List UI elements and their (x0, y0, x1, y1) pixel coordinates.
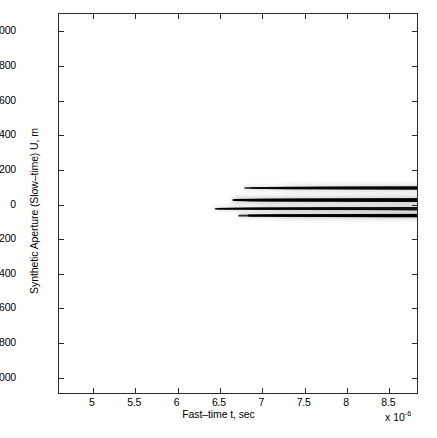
y-tick-mark (59, 378, 64, 379)
y-tick-mark (59, 66, 64, 67)
y-tick-mark (59, 170, 64, 171)
y-tick-mark-right (412, 101, 417, 102)
x-tick-mark-top (262, 14, 263, 19)
y-tick-mark-right (412, 343, 417, 344)
x-tick-mark (135, 388, 136, 393)
y-tick-label: 400 (0, 129, 16, 139)
x-tick-label: 5 (89, 397, 95, 407)
y-tick-mark (59, 239, 64, 240)
y-tick-label: 600 (0, 95, 16, 105)
y-tick-mark-right (412, 308, 417, 309)
y-tick-mark (59, 308, 64, 309)
y-tick-mark-right (412, 31, 417, 32)
figure-caption (0, 430, 437, 438)
y-tick-mark (59, 205, 64, 206)
y-tick-mark-right (412, 170, 417, 171)
x-tick-mark (305, 388, 306, 393)
sar-data-plot (59, 14, 417, 393)
y-axis-title: Synthetic Aperture (Slow–time) U, m (28, 81, 40, 341)
x-tick-mark (347, 388, 348, 393)
y-tick-label: −400 (0, 268, 16, 278)
x-tick-mark-top (389, 14, 390, 19)
y-tick-mark-right (412, 205, 417, 206)
y-tick-mark (59, 101, 64, 102)
y-tick-mark-right (412, 239, 417, 240)
y-tick-label: −800 (0, 337, 16, 347)
y-tick-label: 200 (0, 164, 16, 174)
y-tick-mark-right (412, 135, 417, 136)
y-tick-mark (59, 135, 64, 136)
sar-curve-segment (279, 110, 417, 327)
x-tick-label: 8.5 (381, 397, 395, 407)
x-tick-mark (93, 388, 94, 393)
y-tick-label: 800 (0, 60, 16, 70)
y-tick-label: −1000 (0, 372, 16, 382)
x-tick-label: 7.5 (297, 397, 311, 407)
y-tick-mark (59, 31, 64, 32)
x-tick-mark (389, 388, 390, 393)
x-tick-label: 6 (174, 397, 180, 407)
x-tick-mark-top (347, 14, 348, 19)
sar-figure: Fast–time t, sec x 10-6 Synthetic Apertu… (0, 0, 437, 438)
x-tick-mark-top (135, 14, 136, 19)
x-tick-mark-top (178, 14, 179, 19)
y-tick-mark-right (412, 378, 417, 379)
plot-area (58, 13, 418, 394)
x-tick-mark-top (305, 14, 306, 19)
x-tick-label: 8 (343, 397, 349, 407)
x-tick-mark (178, 388, 179, 393)
y-tick-mark (59, 274, 64, 275)
x-tick-mark (262, 388, 263, 393)
x-axis-exponent: x 10-6 (385, 410, 411, 423)
x-exponent-prefix: x 10 (385, 411, 405, 423)
y-tick-label: 0 (10, 199, 16, 209)
y-tick-mark-right (412, 274, 417, 275)
y-tick-mark (59, 343, 64, 344)
y-tick-label: −600 (0, 302, 16, 312)
y-tick-label: 1000 (0, 25, 16, 35)
y-tick-label: −200 (0, 233, 16, 243)
x-tick-mark (220, 388, 221, 393)
x-tick-mark-top (93, 14, 94, 19)
x-tick-label: 7 (258, 397, 264, 407)
y-tick-mark-right (412, 66, 417, 67)
x-tick-label: 6.5 (212, 397, 226, 407)
x-tick-label: 5.5 (127, 397, 141, 407)
x-axis-title: Fast–time t, sec (0, 408, 437, 420)
x-exponent-power: -6 (405, 410, 411, 417)
x-tick-mark-top (220, 14, 221, 19)
